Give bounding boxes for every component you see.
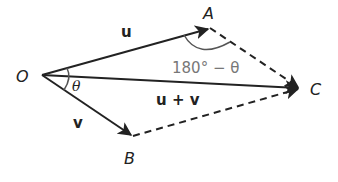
angle-label-supplement: 180° − θ [172,59,239,77]
vector-label-u: u [121,23,132,41]
vector-diagram: O A C B u v u + v θ 180° − θ [0,0,338,182]
vector-label-v: v [73,114,83,132]
point-label-c: C [310,80,322,99]
vector-v [42,75,131,135]
angle-label-theta: θ [72,78,81,94]
point-label-a: A [202,4,214,23]
point-label-o: O [16,67,29,86]
point-label-b: B [124,149,135,168]
dashed-line-a-to-c [210,28,298,87]
angle-arc-theta [64,68,69,90]
vector-label-u-plus-v: u + v [156,91,200,109]
